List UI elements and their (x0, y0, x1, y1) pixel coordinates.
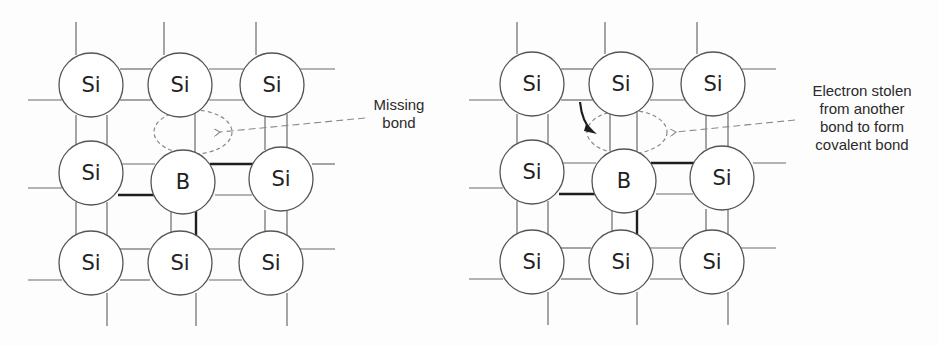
silicon-atom: Si (589, 52, 653, 116)
pointer-arrow (220, 118, 365, 132)
label-line: from another (792, 100, 932, 118)
atom-label: Si (261, 251, 280, 275)
boron-atom: B (151, 150, 215, 214)
missing-bond-ellipse (587, 110, 667, 154)
label-line: covalent bond (792, 136, 932, 154)
boron-atom: B (592, 149, 656, 213)
label-missing-bond: Missing bond (362, 96, 436, 132)
boron-doping-diagram: SiSiSiSiBSiSiSiSi SiSiSiSiBSiSiSiSi Miss… (0, 0, 939, 346)
atom-label: Si (522, 72, 541, 96)
silicon-atom: Si (240, 53, 304, 117)
atom-label: Si (81, 251, 100, 275)
atom-label: Si (702, 250, 721, 274)
label-electron-stolen: Electron stolen from another bond to for… (792, 82, 932, 154)
atom-label: Si (611, 250, 630, 274)
atom-label: Si (262, 73, 281, 97)
silicon-atom: Si (148, 53, 212, 117)
silicon-atom: Si (59, 141, 123, 205)
silicon-atom: Si (500, 140, 564, 204)
atom-label: Si (81, 73, 100, 97)
silicon-atom: Si (59, 231, 123, 295)
silicon-atom: Si (681, 52, 745, 116)
silicon-atom: Si (690, 146, 754, 210)
atom-label: B (176, 170, 190, 194)
atom-label: Si (170, 73, 189, 97)
silicon-atom: Si (148, 231, 212, 295)
atom-label: Si (703, 72, 722, 96)
atom-label: Si (271, 167, 290, 191)
atom-label: Si (611, 72, 630, 96)
silicon-atom: Si (500, 52, 564, 116)
label-line: Missing (362, 96, 436, 114)
atom-label: B (617, 169, 631, 193)
panel-electron-stolen: SiSiSiSiBSiSiSiSi (469, 22, 795, 325)
silicon-atom: Si (249, 147, 313, 211)
panel-missing-bond: SiSiSiSiBSiSiSiSi (28, 22, 365, 326)
label-line: Electron stolen (792, 82, 932, 100)
atom-label: Si (712, 166, 731, 190)
silicon-atom: Si (680, 230, 744, 294)
atom-label: Si (522, 250, 541, 274)
arrowhead-icon (584, 124, 597, 134)
lattice-svg: SiSiSiSiBSiSiSiSi SiSiSiSiBSiSiSiSi (0, 0, 939, 346)
silicon-atom: Si (589, 230, 653, 294)
silicon-atom: Si (239, 231, 303, 295)
atom-label: Si (170, 251, 189, 275)
silicon-atom: Si (59, 53, 123, 117)
atom-label: Si (522, 160, 541, 184)
pointer-arrow (676, 120, 795, 132)
label-line: bond (362, 114, 436, 132)
label-line: bond to form (792, 118, 932, 136)
atom-label: Si (81, 161, 100, 185)
silicon-atom: Si (500, 230, 564, 294)
